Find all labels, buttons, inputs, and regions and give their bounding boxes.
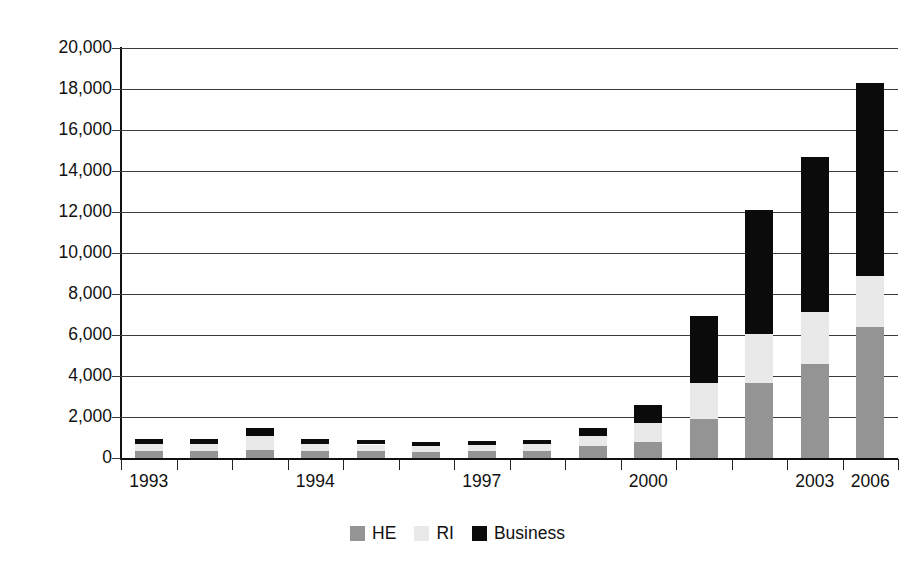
x-axis-tick bbox=[787, 459, 788, 470]
bar-1994 bbox=[190, 439, 218, 458]
y-axis-tick-label: 16,000 bbox=[58, 121, 112, 139]
y-axis-tick-label: 14,000 bbox=[58, 162, 112, 180]
gridline bbox=[121, 212, 898, 213]
bar-segment-he bbox=[357, 451, 385, 458]
bar-segment-business bbox=[634, 405, 662, 423]
bar-1995 bbox=[246, 428, 274, 458]
x-axis-tick bbox=[565, 459, 566, 470]
bar-2002 bbox=[634, 405, 662, 458]
bar-segment-ri bbox=[579, 436, 607, 445]
bar-segment-he bbox=[468, 451, 496, 458]
legend-swatch-ri bbox=[414, 526, 429, 541]
bar-segment-he bbox=[745, 383, 773, 458]
legend-label: Business bbox=[494, 524, 565, 542]
bar-segment-business bbox=[856, 83, 884, 276]
y-axis-tick bbox=[112, 89, 121, 90]
bar-segment-business bbox=[468, 441, 496, 445]
gridline bbox=[121, 130, 898, 131]
bar-2005 bbox=[801, 157, 829, 458]
x-axis-tick-label: 2006 bbox=[851, 472, 890, 490]
bar-1996 bbox=[301, 439, 329, 458]
y-axis-tick bbox=[112, 130, 121, 131]
y-axis-tick-label: 8,000 bbox=[68, 285, 112, 303]
legend-swatch-business bbox=[472, 526, 487, 541]
bar-segment-ri bbox=[468, 445, 496, 451]
y-axis-tick-label: 20,000 bbox=[58, 39, 112, 57]
x-axis-tick bbox=[898, 459, 899, 470]
x-axis-tick-label: 1993 bbox=[129, 472, 168, 490]
bar-segment-he bbox=[523, 451, 551, 458]
x-axis-tick bbox=[232, 459, 233, 470]
stacked-bar-chart: 20,00018,00016,00014,00012,00010,0008,00… bbox=[0, 0, 915, 571]
bar-segment-he bbox=[190, 451, 218, 458]
x-axis-tick bbox=[399, 459, 400, 470]
bar-segment-business bbox=[412, 442, 440, 446]
legend-item-business: Business bbox=[472, 524, 565, 542]
bar-segment-he bbox=[856, 327, 884, 458]
y-axis-tick bbox=[112, 376, 121, 377]
y-axis-tick-label: 10,000 bbox=[58, 244, 112, 262]
y-axis-tick-label: 0 bbox=[102, 449, 112, 467]
bar-segment-ri bbox=[135, 444, 163, 451]
y-axis-tick-label: 4,000 bbox=[68, 367, 112, 385]
bar-2003 bbox=[690, 316, 718, 458]
bar-2001 bbox=[579, 428, 607, 458]
bar-segment-ri bbox=[190, 444, 218, 451]
bar-segment-he bbox=[246, 450, 274, 458]
bar-segment-ri bbox=[412, 446, 440, 452]
bar-segment-he bbox=[634, 442, 662, 458]
bar-segment-business bbox=[745, 210, 773, 334]
bar-1999 bbox=[468, 441, 496, 458]
bar-2004 bbox=[745, 210, 773, 458]
bar-1997 bbox=[357, 440, 385, 458]
x-axis-tick bbox=[343, 459, 344, 470]
gridline bbox=[121, 48, 898, 49]
bar-segment-ri bbox=[690, 383, 718, 419]
y-axis-labels: 20,00018,00016,00014,00012,00010,0008,00… bbox=[0, 0, 112, 571]
bar-segment-ri bbox=[801, 312, 829, 363]
bar-1993 bbox=[135, 439, 163, 458]
bar-segment-ri bbox=[523, 444, 551, 451]
bar-segment-ri bbox=[856, 276, 884, 327]
y-axis-tick-label: 2,000 bbox=[68, 408, 112, 426]
bar-segment-business bbox=[579, 428, 607, 436]
bar-segment-ri bbox=[357, 445, 385, 452]
y-axis-tick-label: 6,000 bbox=[68, 326, 112, 344]
plot-area bbox=[121, 48, 898, 458]
x-axis-tick bbox=[454, 459, 455, 470]
bar-segment-ri bbox=[246, 436, 274, 450]
x-axis-tick-label: 1997 bbox=[462, 472, 501, 490]
bar-segment-business bbox=[301, 439, 329, 444]
bar-segment-he bbox=[412, 452, 440, 458]
legend-swatch-he bbox=[350, 526, 365, 541]
x-axis-tick bbox=[732, 459, 733, 470]
bar-2000 bbox=[523, 440, 551, 458]
legend-item-ri: RI bbox=[414, 524, 454, 542]
bar-segment-business bbox=[690, 316, 718, 384]
bar-segment-ri bbox=[745, 334, 773, 383]
bar-segment-he bbox=[301, 451, 329, 458]
x-axis-tick-label: 1994 bbox=[296, 472, 335, 490]
x-axis-tick-label: 2000 bbox=[629, 472, 668, 490]
x-axis-tick bbox=[121, 459, 122, 470]
chart-legend: HERIBusiness bbox=[0, 524, 915, 542]
bar-segment-business bbox=[357, 440, 385, 444]
gridline bbox=[121, 376, 898, 377]
y-axis-tick bbox=[112, 253, 121, 254]
y-axis-tick-label: 12,000 bbox=[58, 203, 112, 221]
y-axis-tick-label: 18,000 bbox=[58, 80, 112, 98]
y-axis-tick bbox=[112, 458, 121, 459]
bar-segment-he bbox=[135, 451, 163, 458]
x-axis-tick bbox=[843, 459, 844, 470]
bar-segment-business bbox=[190, 439, 218, 444]
x-axis-tick bbox=[177, 459, 178, 470]
x-axis-tick bbox=[288, 459, 289, 470]
gridline bbox=[121, 253, 898, 254]
bar-segment-he bbox=[579, 446, 607, 458]
gridline bbox=[121, 417, 898, 418]
y-axis-tick bbox=[112, 417, 121, 418]
bar-segment-business bbox=[801, 157, 829, 313]
y-axis-tick bbox=[112, 212, 121, 213]
bar-segment-he bbox=[690, 419, 718, 458]
x-axis-tick bbox=[510, 459, 511, 470]
